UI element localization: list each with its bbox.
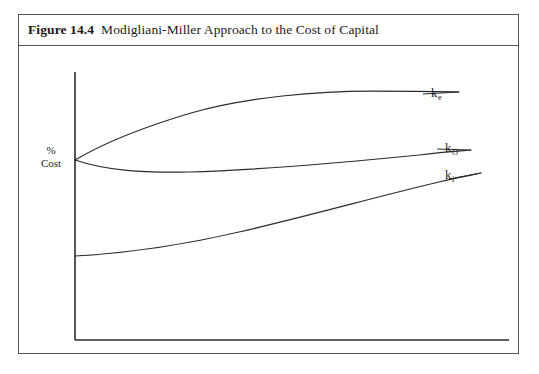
figure-title: Modigliani-Miller Approach to the Cost o… [101,22,379,38]
overall-cost-of-capital-curve [75,150,471,172]
mm-cost-of-capital-chart: k e k O k i % Cost Leverage [19,46,518,353]
figure-number-label: Figure 14.4 [28,22,94,38]
overall-cost-label: k [445,141,452,155]
cost-of-equity-label: k [431,86,438,100]
cost-of-debt-label: k [445,168,452,182]
y-axis-label-percent: % [46,144,55,156]
cost-of-debt-label-subscript: i [452,174,455,184]
figure-root: Figure 14.4 Modigliani-Miller Approach t… [0,0,539,374]
cost-of-equity-curve [75,91,459,160]
figure-frame: Figure 14.4 Modigliani-Miller Approach t… [18,14,519,354]
plot-area: k e k O k i % Cost Leverage [19,46,518,353]
x-axis-label: Leverage [284,351,325,353]
y-axis-label-cost: Cost [41,157,61,169]
cost-of-debt-curve [75,173,481,256]
figure-caption: Figure 14.4 Modigliani-Miller Approach t… [19,15,518,46]
cost-of-equity-label-subscript: e [438,92,442,102]
overall-cost-label-subscript: O [452,147,458,157]
